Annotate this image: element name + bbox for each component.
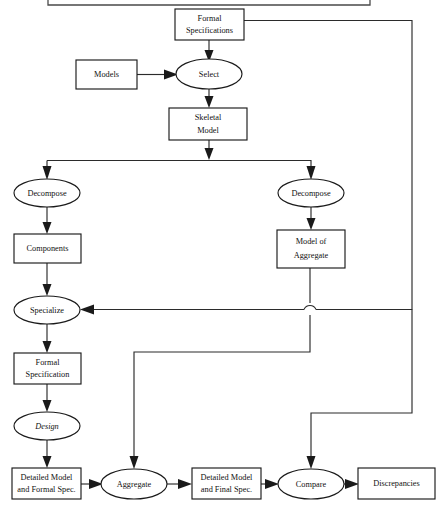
node-label: Specialize — [30, 306, 64, 315]
node-detailed-model-and-formal-spec[interactable]: Detailed Model and Formal Spec. — [12, 468, 81, 499]
edge-detailed-model-formal-spec-to-aggregate — [81, 479, 103, 489]
node-label: Select — [199, 70, 220, 79]
edge-fork-to-decompose-right — [209, 161, 316, 181]
node-label: Model of — [296, 237, 327, 246]
node-label: Aggregate — [117, 480, 152, 489]
node-label: Components — [27, 244, 69, 253]
edge-decompose-left-to-components — [43, 207, 52, 234]
node-label: Specifications — [186, 26, 233, 35]
node-label: and Final Spec. — [201, 485, 252, 494]
node-label: Models — [94, 70, 119, 79]
node-label: Model — [197, 126, 219, 135]
node-label: Discrepancies — [373, 479, 420, 488]
node-label: Detailed Model — [201, 473, 254, 482]
node-label: Specification — [26, 370, 71, 379]
edge-decompose-right-to-model-of-aggregate — [307, 207, 316, 230]
node-label: Skeletal — [195, 113, 222, 122]
node-formal-specifications[interactable]: Formal Specifications — [175, 9, 244, 40]
node-design[interactable]: Design — [14, 412, 80, 440]
node-formal-specification[interactable]: Formal Specification — [14, 353, 81, 384]
node-label: Detailed Model — [21, 473, 74, 482]
node-label: Design — [34, 422, 59, 431]
node-label: Aggregate — [294, 251, 329, 260]
node-label: and Formal Spec. — [17, 485, 75, 494]
node-label: Decompose — [27, 189, 66, 198]
node-aggregate[interactable]: Aggregate — [101, 469, 167, 499]
node-compare[interactable]: Compare — [278, 469, 344, 499]
node-label: Compare — [296, 480, 327, 489]
node-model-of-aggregate[interactable]: Model of Aggregate — [277, 230, 345, 268]
edge-aggregate-to-detailed-model-final-spec — [167, 479, 192, 489]
node-label: Decompose — [291, 189, 330, 198]
edge-models-to-select — [137, 70, 178, 80]
edge-components-to-specialize — [43, 263, 52, 296]
node-components[interactable]: Components — [14, 234, 81, 263]
edge-select-to-skeletal-model — [205, 89, 214, 108]
node-label: Formal — [198, 14, 223, 23]
node-decompose-right[interactable]: Decompose — [278, 179, 344, 207]
node-label: Formal — [36, 358, 61, 367]
edge-compare-to-discrepancies — [344, 479, 359, 489]
node-discrepancies[interactable]: Discrepancies — [358, 468, 435, 499]
edge-fork-to-decompose-left — [43, 161, 210, 181]
edge-formal-specification-to-design — [43, 384, 52, 412]
edge-model-of-aggregate-to-aggregate — [130, 268, 311, 469]
edge-skeletal-model-to-fork — [205, 140, 214, 160]
node-select[interactable]: Select — [176, 59, 242, 89]
edge-design-to-detailed-model-formal-spec — [43, 440, 52, 468]
flowchart-canvas: Formal Specifications Models Select Skel… — [0, 0, 439, 517]
edge-specialize-to-formal-specification — [43, 324, 52, 353]
truncated-box-above — [48, 0, 370, 5]
edge-detailed-model-final-spec-to-compare — [261, 479, 279, 489]
node-decompose-left[interactable]: Decompose — [14, 179, 80, 207]
node-specialize[interactable]: Specialize — [14, 296, 80, 324]
node-detailed-model-and-final-spec[interactable]: Detailed Model and Final Spec. — [192, 468, 261, 499]
node-models[interactable]: Models — [76, 60, 137, 89]
edge-formal-specifications-feedback-to-compare — [307, 310, 413, 470]
node-skeletal-model[interactable]: Skeletal Model — [169, 108, 247, 140]
diagram-page: Formal Specifications Models Select Skel… — [0, 0, 439, 517]
